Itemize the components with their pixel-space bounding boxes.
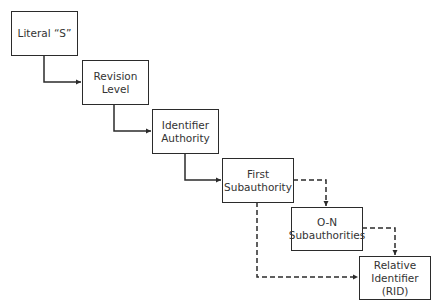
node-label-line: Relative: [371, 259, 418, 272]
node-identifier-authority: Identifier Authority: [152, 109, 219, 154]
node-label-line: Authority: [161, 132, 210, 145]
node-first-subauthority: First Subauthority: [222, 158, 294, 203]
node-label-line: Identifier: [371, 272, 418, 285]
node-label: Literal “S”: [18, 27, 72, 40]
node-label-line: Subauthorities: [289, 229, 365, 242]
node-label-line: Subauthority: [224, 181, 292, 194]
node-label-line: First: [224, 168, 292, 181]
node-label-line: Identifier: [161, 119, 210, 132]
node-on-subauthorities: O-N Subauthorities: [291, 207, 363, 251]
edge-revision-to-identifier-authority: [114, 104, 151, 131]
node-label-line: Level: [94, 83, 138, 96]
edge-first-to-on-subauthorities: [293, 180, 326, 206]
node-literal-s: Literal “S”: [11, 11, 78, 56]
edge-literal-to-revision: [44, 55, 81, 82]
node-revision-level: Revision Level: [82, 60, 149, 105]
node-label-line: Revision: [94, 70, 138, 83]
node-label-line: (RID): [371, 285, 418, 298]
edge-on-subauthorities-to-rid: [362, 228, 395, 255]
node-label-line: O-N: [289, 216, 365, 229]
node-relative-identifier: Relative Identifier (RID): [359, 256, 431, 300]
edge-identifier-authority-to-first-subauthority: [185, 153, 221, 180]
